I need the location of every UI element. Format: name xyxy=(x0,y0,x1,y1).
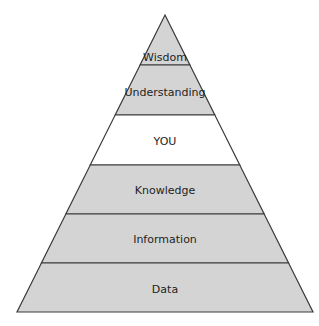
level-label-understanding: Understanding xyxy=(124,86,205,99)
level-label-data: Data xyxy=(152,283,178,296)
level-label-you: YOU xyxy=(153,135,177,148)
level-label-wisdom: Wisdom xyxy=(143,51,187,64)
knowledge-pyramid-diagram: Wisdom Understanding YOU Knowledge Infor… xyxy=(0,0,319,326)
level-label-knowledge: Knowledge xyxy=(135,184,196,197)
level-label-information: Information xyxy=(133,233,197,246)
